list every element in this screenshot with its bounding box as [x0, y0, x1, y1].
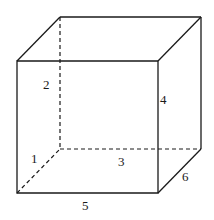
hidden-bottom-left-depth-edge: [17, 149, 60, 193]
edge-label-3: 3: [118, 154, 125, 169]
bottom-right-depth-edge: [158, 149, 201, 193]
edge-label-6: 6: [182, 169, 189, 184]
edge-label-2: 2: [43, 77, 50, 92]
front-face: [17, 61, 158, 193]
top-left-depth-edge: [17, 17, 60, 61]
edge-label-1: 1: [31, 151, 38, 166]
edge-label-4: 4: [160, 92, 167, 107]
edge-label-5: 5: [82, 198, 89, 213]
cube-diagram: 1 2 3 4 5 6: [0, 0, 214, 220]
top-right-depth-edge: [158, 17, 201, 61]
